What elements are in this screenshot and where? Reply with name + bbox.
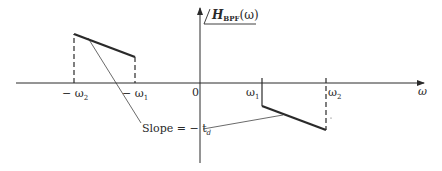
title-slant bbox=[204, 9, 210, 24]
phase-line-negative bbox=[74, 34, 135, 57]
slope-annotation: Slope = − td bbox=[142, 122, 212, 137]
x-axis-label: ω bbox=[418, 85, 427, 98]
tick-label-omega2: ω2 bbox=[328, 86, 341, 101]
bpf-diagram: HBPF(ω) − ω2 − ω1 0 ω1 ω2 ω Slope = − td bbox=[0, 0, 442, 171]
tick-label-neg-omega1: − ω1 bbox=[122, 87, 148, 102]
leader-line-right bbox=[203, 115, 283, 129]
stray-dot bbox=[330, 117, 331, 118]
phase-line-positive bbox=[262, 106, 326, 130]
tick-label-omega1: ω1 bbox=[246, 86, 259, 101]
leader-line-left bbox=[88, 38, 141, 123]
tick-label-neg-omega2: − ω2 bbox=[62, 87, 88, 102]
origin-label: 0 bbox=[192, 86, 199, 99]
title-label: HBPF(ω) bbox=[211, 8, 259, 23]
